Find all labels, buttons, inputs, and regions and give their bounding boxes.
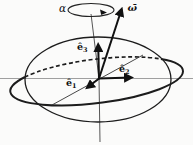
equator-ring-front: [10, 59, 183, 105]
equator-ring-back-dashed: [25, 57, 161, 77]
e2-label-subscript: 2: [125, 68, 130, 76]
e1-axis-arrow: [88, 79, 100, 88]
precession-arrowhead-icon: [100, 10, 107, 15]
e2-axis-arrow: [99, 78, 131, 79]
e3-label-subscript: 3: [83, 46, 88, 54]
e2-axis-label: ê2: [119, 63, 130, 76]
e3-axis-label: ê3: [77, 41, 88, 54]
e3-axis-arrow: [98, 45, 99, 79]
alpha-angle-label: α: [59, 2, 66, 14]
omega-vector-label: ω̄: [128, 2, 138, 13]
e1-label-subscript: 1: [72, 82, 77, 90]
free-precession-diagram: α ω̄ ê3 ê2 ê1: [0, 0, 193, 145]
